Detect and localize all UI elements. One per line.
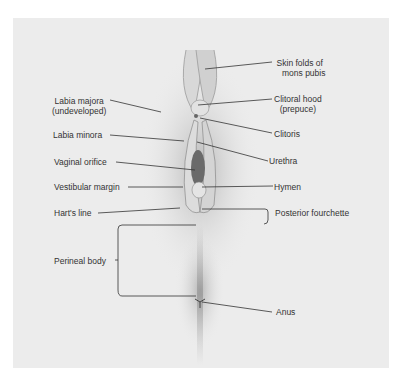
label-vaginal-orifice: Vaginal orifice <box>54 157 107 167</box>
label-line: mons pubis <box>274 68 325 78</box>
label-text: Hart's line <box>54 208 92 218</box>
label-line: (prepuce) <box>274 104 322 114</box>
label-text: Hymen <box>274 182 301 192</box>
label-text: Vaginal orifice <box>54 157 107 167</box>
label-hymen: Hymen <box>274 182 301 192</box>
label-labia-majora: Labia majora (undeveloped) <box>52 96 106 116</box>
label-line: Skin folds of <box>274 58 325 68</box>
label-text: Labia minora <box>53 130 102 140</box>
label-line: Clitoral hood <box>274 94 322 104</box>
label-posterior-fourchette: Posterior fourchette <box>275 208 349 218</box>
label-vestibular-margin: Vestibular margin <box>54 182 120 192</box>
label-line: Labia majora <box>52 96 106 106</box>
label-clitoral-hood: Clitoral hood (prepuce) <box>274 94 322 114</box>
label-text: Urethra <box>269 156 297 166</box>
label-clitoris: Clitoris <box>274 129 300 139</box>
label-harts-line: Hart's line <box>54 208 92 218</box>
label-text: Posterior fourchette <box>275 208 349 218</box>
diagram-canvas: Labia majora (undeveloped) Labia minora … <box>0 0 407 376</box>
label-text: Perineal body <box>54 256 106 266</box>
label-line: (undeveloped) <box>52 106 106 116</box>
label-anus: Anus <box>276 307 295 317</box>
label-text: Vestibular margin <box>54 182 120 192</box>
label-text: Anus <box>276 307 295 317</box>
label-urethra: Urethra <box>269 156 297 166</box>
label-text: Clitoris <box>274 129 300 139</box>
label-perineal-body: Perineal body <box>54 256 106 266</box>
label-skin-folds: Skin folds of mons pubis <box>274 58 325 78</box>
label-labia-minora: Labia minora <box>53 130 102 140</box>
